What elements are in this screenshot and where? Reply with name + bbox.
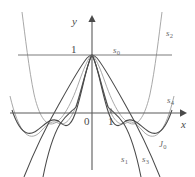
plot-canvas xyxy=(0,0,195,177)
curve-label-s4: s4 xyxy=(167,96,174,105)
curve-label-s3-sub: 3 xyxy=(146,158,149,165)
curve-label-s2: s2 xyxy=(166,29,173,38)
y-axis-arrow-icon xyxy=(88,15,95,22)
origin-label: 0 xyxy=(84,116,90,127)
curve-label-s3-base: s xyxy=(142,154,146,164)
curve-label-s1-sub: 1 xyxy=(125,158,128,165)
curve-label-s0: s0 xyxy=(113,46,120,55)
y-tick-label-1: 1 xyxy=(71,44,77,55)
curve-label-s3: s3 xyxy=(142,155,149,164)
curve-label-s2-sub: 2 xyxy=(170,32,173,39)
curve-label-J0: J0 xyxy=(159,140,166,149)
y-axis-label: y xyxy=(72,16,77,27)
curve-label-s1: s1 xyxy=(121,155,128,164)
curve-label-s4-sub: 4 xyxy=(171,99,174,106)
bessel-partial-sums-figure: y x 1 0 1 s0 s2 s4 s1 s3 J0 xyxy=(0,0,195,177)
x-axis-arrow-icon xyxy=(180,109,187,116)
curve-label-s2-base: s xyxy=(166,28,170,38)
curve-label-s1-base: s xyxy=(121,154,125,164)
curve-label-s0-base: s xyxy=(113,45,117,55)
curve-label-s0-sub: 0 xyxy=(117,49,120,56)
curve-label-s4-base: s xyxy=(167,95,171,105)
x-tick-label-1: 1 xyxy=(108,116,114,127)
curve-label-J0-sub: 0 xyxy=(163,143,166,150)
x-axis-label: x xyxy=(181,119,186,130)
